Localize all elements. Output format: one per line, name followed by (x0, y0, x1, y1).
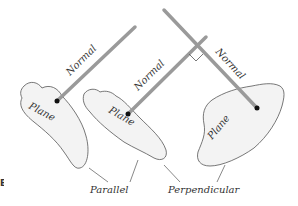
figure-label: B (0, 178, 4, 188)
normal-1-label: Normal (63, 43, 98, 78)
normal-3-label: Normal (213, 45, 248, 81)
perpendicular-leader-1 (164, 165, 180, 182)
parallel-leader-1 (89, 168, 108, 182)
right-angle-marker-icon (189, 54, 203, 61)
plane-1: Plane (21, 82, 88, 168)
parallel-caption: Parallel (89, 184, 129, 195)
diagram-canvas: Plane Plane Plane Normal Normal (0, 0, 298, 206)
plane-2-point (126, 112, 131, 117)
perpendicular-caption: Perpendicular (167, 184, 241, 195)
normal-line-3 (164, 10, 257, 108)
plane-3-point (255, 106, 260, 111)
plane-2: Plane (83, 89, 166, 159)
parallel-leader-2 (130, 160, 138, 182)
perpendicular-leader-2 (217, 165, 225, 182)
plane-3: Plane (198, 84, 285, 166)
normals-diagram: Plane Plane Plane Normal Normal (0, 0, 298, 206)
plane-1-point (55, 99, 60, 104)
normal-2-label: Normal (131, 58, 166, 93)
